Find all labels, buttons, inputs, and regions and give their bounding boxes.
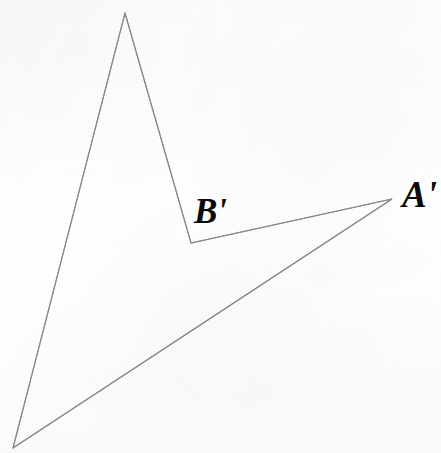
edge-bottom-left-to-apex: [13, 13, 125, 448]
edge-a-prime-to-bottom-left: [13, 199, 392, 448]
vertex-label-a-prime: A': [402, 176, 437, 213]
vertex-label-b-prime: B': [194, 194, 227, 229]
figure-canvas: B' A': [0, 0, 441, 453]
edge-apex-to-b-prime: [125, 13, 191, 243]
